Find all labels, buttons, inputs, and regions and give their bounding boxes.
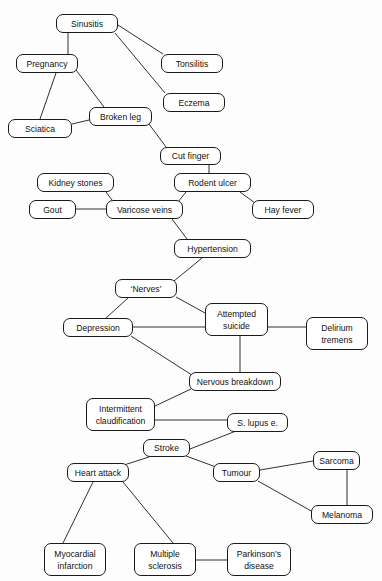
node-tonsilitis: Tonsilitis [161, 54, 223, 73]
node-varicose-veins: Varicose veins [106, 200, 183, 219]
edge-varicose-veins-hypertension [172, 219, 187, 239]
edge-nerves-attempted-suicide [176, 297, 205, 313]
edge-sinusitis-eczema [115, 33, 165, 93]
node-pregnancy: Pregnancy [16, 54, 78, 73]
edge-tumour-melanoma [258, 481, 313, 512]
edge-kidney-stones-varicose-veins [106, 192, 112, 200]
node-rodent-ulcer: Rodent ulcer [174, 173, 251, 192]
node-parkinsons-disease: Parkinson’s disease [227, 543, 291, 576]
node-heart-attack: Heart attack [67, 463, 129, 482]
node-hay-fever: Hay fever [252, 200, 314, 219]
node-sinusitis: Sinusitis [56, 14, 118, 33]
node-broken-leg: Broken leg [89, 107, 152, 126]
node-delirium-tremens: Delirium tremens [306, 317, 368, 350]
edge-sciatica-broken-leg [72, 120, 89, 124]
edge-nerves-depression [106, 298, 128, 318]
edge-depression-nervous-breakdown [131, 336, 195, 377]
node-attempted-suicide: Attempted suicide [205, 303, 268, 336]
edge-nervous-breakdown-intermittent-claudification [155, 389, 191, 406]
node-nerves: ‘Nerves’ [115, 279, 177, 298]
edge-broken-leg-cut-finger [149, 124, 166, 147]
node-sciatica: Sciatica [8, 119, 72, 138]
edge-layer [0, 0, 382, 581]
node-intermittent-claudification: Intermittent claudification [86, 398, 155, 431]
node-cut-finger: Cut finger [160, 147, 221, 165]
edge-pregnancy-broken-leg [76, 70, 104, 107]
node-sarcoma: Sarcoma [313, 451, 360, 470]
node-tumour: Tumour [213, 463, 260, 482]
edge-sinusitis-tonsilitis [118, 25, 163, 54]
edge-heart-attack-myocardial-infarction [63, 482, 93, 543]
node-stroke: Stroke [143, 439, 190, 457]
node-s-lupus-e: S. lupus e. [227, 413, 288, 432]
node-hypertension: Hypertension [174, 239, 251, 258]
edge-tumour-sarcoma [260, 461, 313, 470]
node-melanoma: Melanoma [311, 505, 373, 524]
node-multiple-sclerosis: Multiple sclerosis [134, 543, 196, 576]
diagram-canvas: SinusitisPregnancyTonsilitisEczemaBroken… [0, 0, 382, 581]
edge-stroke-tumour [186, 456, 216, 467]
node-eczema: Eczema [163, 93, 225, 112]
node-depression: Depression [63, 318, 133, 337]
node-kidney-stones: Kidney stones [37, 173, 114, 192]
edge-heart-attack-multiple-sclerosis [123, 482, 173, 543]
edge-pregnancy-sciatica [40, 73, 56, 119]
node-gout: Gout [29, 200, 76, 219]
node-nervous-breakdown: Nervous breakdown [189, 372, 281, 391]
node-myocardial-infarction: Myocardial infarction [44, 543, 106, 576]
edge-rodent-ulcer-hay-fever [240, 192, 255, 203]
edge-s-lupus-e-stroke [190, 431, 236, 449]
edge-stroke-heart-attack [124, 457, 149, 465]
edge-hypertension-nerves [174, 258, 202, 281]
